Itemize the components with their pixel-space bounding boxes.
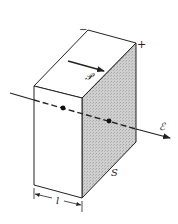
front-face <box>34 86 82 198</box>
field-label: ℰ <box>159 121 166 132</box>
negative-charge-label: − <box>79 24 87 35</box>
charge-dot-back <box>107 119 112 124</box>
dimension-arrow-left-icon <box>35 193 40 197</box>
thickness-label: l <box>56 195 59 206</box>
slab-diagram: − + 𝒫 ℰ S l <box>0 0 178 224</box>
field-line-incoming <box>10 93 34 100</box>
dimension-arrow-right-icon <box>76 202 81 206</box>
surface-label: S <box>111 167 118 178</box>
charge-dot-front <box>61 106 66 111</box>
positive-charge-label: + <box>137 38 146 51</box>
